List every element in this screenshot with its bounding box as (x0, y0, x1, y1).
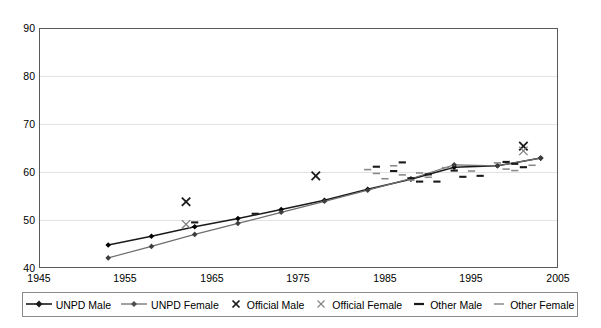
data-point (105, 242, 111, 248)
data-point (495, 163, 501, 169)
official-female-x-icon (314, 298, 328, 312)
legend-item-other-female[interactable]: Other Female (487, 298, 579, 312)
other-female-dash-icon (492, 298, 506, 312)
data-point (105, 255, 111, 261)
data-point (149, 234, 155, 240)
legend-item-other-male[interactable]: Other Male (407, 298, 487, 312)
data-point (235, 221, 241, 227)
chart-root: 90 80 70 60 50 40 1945 1955 1965 1975 19… (0, 0, 601, 328)
legend-item-official-female[interactable]: Official Female (309, 298, 407, 312)
data-point (192, 224, 198, 230)
chart-data-layer (0, 0, 601, 328)
series-official-female (182, 147, 528, 229)
data-point (538, 155, 544, 161)
unpd-female-line-icon (121, 298, 147, 312)
series-line (108, 158, 541, 258)
legend-label-other-female: Other Female (510, 299, 574, 311)
data-point (149, 244, 155, 250)
chart-legend: UNPD Male UNPD Female Official Male (22, 292, 578, 317)
series-unpd-female (105, 155, 543, 260)
series-official-male (182, 142, 528, 206)
legend-label-unpd-male: UNPD Male (56, 299, 111, 311)
data-point (192, 232, 198, 238)
series-other-female (364, 163, 536, 180)
data-point (235, 216, 241, 222)
legend-label-other-male: Other Male (430, 299, 482, 311)
unpd-male-line-icon (26, 298, 52, 312)
official-male-x-icon (229, 298, 243, 312)
legend-item-unpd-female[interactable]: UNPD Female (116, 298, 224, 312)
legend-label-official-male: Official Male (247, 299, 305, 311)
legend-label-official-female: Official Female (332, 299, 402, 311)
legend-label-unpd-female: UNPD Female (151, 299, 219, 311)
legend-item-unpd-male[interactable]: UNPD Male (21, 298, 116, 312)
other-male-dash-icon (412, 298, 426, 312)
legend-item-official-male[interactable]: Official Male (224, 298, 310, 312)
